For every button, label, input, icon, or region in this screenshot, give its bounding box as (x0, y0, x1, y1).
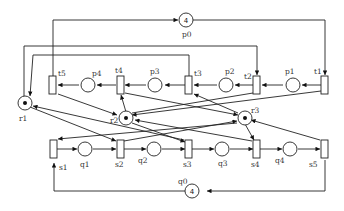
place-label: p2 (225, 67, 235, 76)
transition-label: s3 (183, 160, 192, 169)
place-label: p1 (285, 67, 295, 76)
place-p2[interactable]: p2 (219, 67, 235, 92)
place-label: p3 (150, 67, 160, 76)
arcs (24, 20, 325, 191)
place-r3[interactable]: r3 (238, 106, 260, 125)
place-r1[interactable]: r1 (18, 96, 32, 123)
token-dot (243, 116, 247, 120)
place-r2[interactable]: r2 (110, 111, 133, 125)
place-label: r2 (110, 116, 119, 125)
place-q0[interactable]: 4 q0 (178, 177, 199, 198)
transition-label: s5 (309, 160, 318, 169)
token-dot (124, 116, 128, 120)
transition-label: t5 (58, 69, 66, 78)
transition-label: t2 (244, 72, 252, 81)
transition-s1[interactable]: s1 (50, 140, 68, 172)
petri-net-diagram: 4 p0 p1 p2 p3 p4 r1 r2 r3 q1 q2 (0, 0, 344, 211)
place-q1[interactable]: q1 (78, 142, 92, 169)
token-count: 4 (184, 17, 189, 25)
place-label: q1 (80, 160, 90, 169)
transition-label: t3 (194, 69, 202, 78)
place-q4[interactable]: q4 (275, 142, 297, 165)
transition-s4[interactable]: s4 (251, 140, 260, 169)
place-p0[interactable]: 4 p0 (179, 13, 193, 39)
transition-s2[interactable]: s2 (115, 140, 124, 169)
transition-t4[interactable]: t4 (115, 66, 124, 94)
place-label: q0 (178, 177, 188, 186)
place-q2[interactable]: q2 (138, 142, 161, 165)
place-p3[interactable]: p3 (148, 67, 162, 92)
transition-label: t4 (115, 66, 123, 75)
transition-label: s4 (251, 160, 260, 169)
transition-t1[interactable]: t1 (314, 67, 328, 94)
transition-s3[interactable]: s3 (183, 140, 192, 169)
transition-t2[interactable]: t2 (244, 72, 260, 94)
place-q3[interactable]: q3 (215, 142, 229, 168)
transition-label: s1 (59, 163, 68, 172)
transition-label: s2 (115, 160, 124, 169)
place-p1[interactable]: p1 (285, 67, 300, 92)
place-label: p0 (182, 30, 192, 39)
transition-label: t1 (314, 67, 322, 76)
place-label: q2 (138, 156, 148, 165)
transition-t3[interactable]: t3 (185, 69, 202, 94)
place-label: r1 (19, 114, 27, 123)
transition-t5[interactable]: t5 (49, 69, 66, 94)
place-label: p4 (92, 69, 102, 78)
token-dot (23, 101, 27, 105)
place-label: q3 (218, 159, 228, 168)
place-label: q4 (275, 156, 285, 165)
place-label: r3 (251, 106, 260, 115)
place-p4[interactable]: p4 (81, 69, 102, 92)
token-count: 4 (190, 188, 195, 196)
